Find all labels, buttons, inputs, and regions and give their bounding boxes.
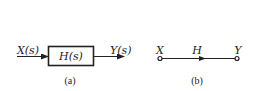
block-label: H(s)	[58, 50, 83, 63]
output-label: Y(s)	[110, 44, 132, 57]
signal-flow-graph: X H Y (b)	[155, 44, 243, 87]
caption-a: (a)	[64, 75, 75, 87]
block-diagram: X(s) H(s) Y(s) (a)	[16, 44, 132, 87]
input-node-label: X	[155, 44, 165, 57]
caption-b: (b)	[191, 75, 203, 87]
input-label: X(s)	[16, 44, 39, 57]
input-node	[158, 57, 162, 61]
branch-label: H	[191, 44, 202, 57]
output-node-label: Y	[234, 44, 243, 57]
diagram-canvas: X(s) H(s) Y(s) (a) X H Y (b)	[0, 0, 254, 91]
output-node	[235, 57, 239, 61]
